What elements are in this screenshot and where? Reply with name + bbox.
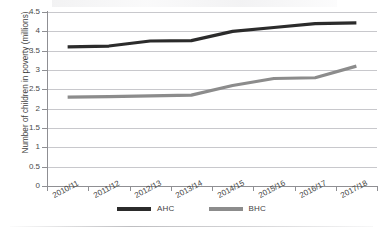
series-line-bhc (68, 66, 357, 97)
series-lines (0, 0, 383, 234)
legend-item-ahc[interactable]: AHC (117, 205, 175, 213)
legend-label: AHC (157, 205, 175, 213)
chart-figure: Number of children in poverty (millions)… (0, 0, 383, 234)
legend-label: BHC (249, 205, 267, 213)
chart-legend: AHCBHC (0, 205, 383, 213)
legend-swatch-icon (117, 207, 151, 210)
legend-swatch-icon (209, 207, 243, 210)
legend-item-bhc[interactable]: BHC (209, 205, 267, 213)
page-divider-rule (10, 226, 373, 227)
series-line-ahc (68, 23, 357, 47)
